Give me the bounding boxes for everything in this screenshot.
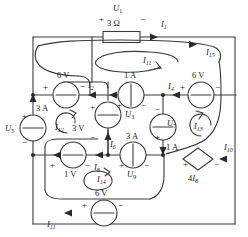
source-3a-center-minus: − xyxy=(144,161,149,170)
dependent-source-minus: − xyxy=(214,160,219,169)
label-3ohm: 3 Ω xyxy=(107,19,120,28)
circuit-schematic-canvas xyxy=(0,0,248,237)
label-u3: U3 xyxy=(125,110,134,119)
mesh-label-i13: I13 xyxy=(194,122,203,131)
source-6v-left-plus: + xyxy=(43,83,48,92)
label-3a-center: 3 A xyxy=(126,132,138,141)
source-1a-center-minus: − xyxy=(141,101,146,110)
current-label-i1: I1 xyxy=(161,20,167,29)
label-u9: U9 xyxy=(127,170,136,179)
label-6v-bottom: 6 V xyxy=(95,189,107,198)
source-6v-bottom-minus: − xyxy=(118,201,123,210)
current-label-i10: I10 xyxy=(224,143,233,152)
source-3a-left-plus: + xyxy=(22,112,27,121)
source-3v-minus: − xyxy=(90,133,95,142)
source-3a-center-plus: + xyxy=(119,161,124,170)
source-6v-right-minus: − xyxy=(215,83,220,92)
mesh-label-i12: I12 xyxy=(55,123,64,132)
source-3v-plus: + xyxy=(90,103,95,112)
resistor-3ohm-body xyxy=(103,32,140,43)
wire-bottom-riser xyxy=(150,155,164,199)
mesh-arrow-i11 xyxy=(96,51,178,62)
label-u5: U5 xyxy=(5,124,14,133)
mesh-label-i14: I14 xyxy=(97,175,106,184)
current-label-i11: I11 xyxy=(47,220,55,229)
source-1a-right-minus: − xyxy=(155,105,160,114)
current-label-i4: I4 xyxy=(168,82,174,91)
label-u1: U1 xyxy=(113,4,122,13)
source-1v-plus: + xyxy=(50,161,55,170)
mesh-label-i11: I11 xyxy=(143,56,151,65)
label-1a-center: 1 A xyxy=(124,71,136,80)
source-6v-right-plus: + xyxy=(180,83,185,92)
label-6v-left: 6 V xyxy=(57,71,69,80)
current-label-i2: I2 xyxy=(88,81,94,90)
resistor-minus-sign: − xyxy=(140,15,145,24)
dependent-source-plus: + xyxy=(183,160,188,169)
resistor-plus-sign: + xyxy=(99,15,104,24)
current-label-i15: I15 xyxy=(206,48,215,57)
source-1a-right-plus: + xyxy=(155,133,160,142)
label-1v: 1 V xyxy=(64,170,76,179)
source-1a-center-plus: + xyxy=(117,101,122,110)
source-3a-left-minus: − xyxy=(22,138,27,147)
current-label-i8: I8 xyxy=(94,163,100,172)
label-6v-right: 6 V xyxy=(192,71,204,80)
label-3a-left: 3 A xyxy=(36,104,48,113)
current-label-i6: I6 xyxy=(110,140,116,149)
label-1a-right: 1 A xyxy=(166,143,178,152)
label-dependent-source: 4I8 xyxy=(188,174,198,183)
label-u7: U7 xyxy=(167,119,176,128)
source-6v-left-minus: − xyxy=(80,82,85,91)
circuit-diagram: U1 + 3 Ω − I1 I15 I11 6 V + − I2 1 A + −… xyxy=(0,0,248,237)
source-6v-bottom-plus: + xyxy=(82,201,87,210)
label-3v: 3 V xyxy=(72,124,84,133)
source-1v-minus: − xyxy=(85,161,90,170)
